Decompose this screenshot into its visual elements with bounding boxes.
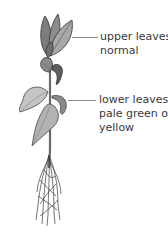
upper-leaves [41,14,73,58]
plant-diagram: upper leaves normal lower leaves pale gr… [0,0,168,231]
middle-leaf-left [41,58,53,72]
lower-label-line-1: lower leaves [99,93,168,107]
upper-label-line-1: upper leaves [100,30,168,44]
lower-leaf-large [32,104,58,146]
lower-leaves-label: lower leaves pale green or yellow [99,93,168,135]
lower-label-line-3: yellow [99,121,168,135]
lower-leaves-leader-line [68,100,96,101]
middle-leaf-curl [52,64,62,84]
upper-leaves-label: upper leaves normal [100,30,168,58]
middle-leaves [41,58,63,85]
upper-label-line-2: normal [100,44,168,58]
upper-leaves-leader-line [72,37,98,38]
lower-leaves [19,87,66,146]
lower-label-line-2: pale green or [99,107,168,121]
